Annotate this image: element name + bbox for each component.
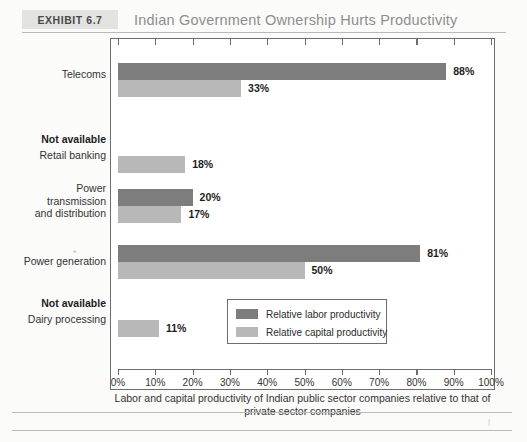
- x-tick-70: [379, 369, 380, 375]
- legend-swatch-labor-icon: [236, 309, 258, 319]
- exhibit-header: Exhibit 6.7 Indian Government Ownership …: [22, 10, 506, 32]
- x-tick-top-60: [342, 39, 343, 45]
- category-label-column: TelecomsNot availableRetail bankingPower…: [0, 38, 106, 390]
- x-tick-label-100: 100%: [478, 377, 504, 388]
- bar-capital-3: [118, 262, 305, 279]
- x-tick-label-30: 30%: [220, 377, 240, 388]
- footer-divider-bottom: [12, 430, 512, 431]
- legend-label-labor: Relative labor productivity: [266, 309, 381, 320]
- footer-divider-top: [12, 412, 512, 413]
- category-label-4: Dairy processing: [0, 313, 106, 326]
- x-tick-10: [155, 369, 156, 375]
- x-tick-label-80: 80%: [406, 377, 426, 388]
- chart-legend: Relative labor productivity Relative cap…: [227, 299, 387, 344]
- bar-value-capital-3: 50%: [312, 262, 333, 279]
- x-tick-top-30: [230, 39, 231, 45]
- not-available-label-4: Not available: [0, 297, 106, 310]
- exhibit-number-text: Exhibit 6.7: [38, 14, 103, 26]
- not-available-label-1: Not available: [0, 133, 106, 146]
- x-tick-label-70: 70%: [369, 377, 389, 388]
- x-tick-40: [267, 369, 268, 375]
- x-tick-label-10: 10%: [145, 377, 165, 388]
- page-title: Indian Government Ownership Hurts Produc…: [134, 10, 458, 29]
- bar-value-capital-1: 18%: [192, 156, 213, 173]
- x-tick-label-90: 90%: [444, 377, 464, 388]
- bar-value-labor-0: 88%: [453, 63, 474, 80]
- x-tick-top-0: [118, 39, 119, 45]
- x-tick-20: [193, 369, 194, 375]
- bar-labor-2: [118, 189, 193, 206]
- x-tick-top-10: [155, 39, 156, 45]
- x-tick-label-40: 40%: [257, 377, 277, 388]
- x-tick-top-100: [491, 39, 492, 45]
- bar-labor-0: [118, 63, 446, 80]
- x-tick-top-90: [454, 39, 455, 45]
- bar-capital-2: [118, 206, 181, 223]
- exhibit-number-badge: Exhibit 6.7: [22, 10, 118, 29]
- category-label-3: Power generation: [0, 255, 106, 268]
- category-label-2: Power transmission and distribution: [0, 182, 106, 220]
- x-tick-top-50: [305, 39, 306, 45]
- legend-swatch-capital-icon: [236, 327, 258, 337]
- x-tick-30: [230, 369, 231, 375]
- x-tick-label-0: 0%: [111, 377, 125, 388]
- x-tick-top-40: [267, 39, 268, 45]
- bar-value-labor-3: 81%: [427, 245, 448, 262]
- category-label-0: Telecoms: [0, 68, 106, 81]
- bar-value-capital-2: 17%: [188, 206, 209, 223]
- x-tick-50: [305, 369, 306, 375]
- legend-item-capital: Relative capital productivity: [236, 324, 386, 340]
- x-tick-top-80: [416, 39, 417, 45]
- header-divider: [22, 32, 506, 33]
- legend-label-capital: Relative capital productivity: [266, 327, 387, 338]
- x-axis-caption: Labor and capital productivity of Indian…: [110, 392, 495, 418]
- bar-capital-0: [118, 80, 241, 97]
- x-tick-90: [454, 369, 455, 375]
- bar-value-labor-2: 20%: [200, 189, 221, 206]
- bar-labor-3: [118, 245, 420, 262]
- bar-capital-4: [118, 320, 159, 337]
- scan-artifact-asterisk: *: [73, 248, 77, 258]
- bar-capital-1: [118, 156, 185, 173]
- x-tick-100: [491, 369, 492, 375]
- footer-mark: |: [488, 417, 490, 426]
- x-tick-60: [342, 369, 343, 375]
- x-tick-0: [118, 369, 119, 375]
- legend-item-labor: Relative labor productivity: [236, 306, 386, 322]
- category-label-1: Retail banking: [0, 149, 106, 162]
- x-tick-top-70: [379, 39, 380, 45]
- x-tick-top-20: [193, 39, 194, 45]
- bar-value-capital-4: 11%: [166, 320, 186, 337]
- x-tick-label-20: 20%: [183, 377, 203, 388]
- x-tick-label-60: 60%: [332, 377, 352, 388]
- x-tick-80: [416, 369, 417, 375]
- bar-value-capital-0: 33%: [248, 80, 269, 97]
- x-tick-label-50: 50%: [294, 377, 314, 388]
